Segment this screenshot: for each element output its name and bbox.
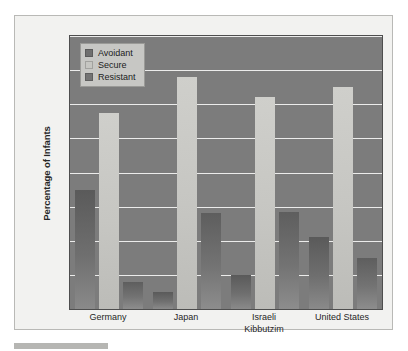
- bar-israeli-kibbutzim-resistant: [279, 212, 299, 309]
- bar-germany-secure: [99, 113, 119, 309]
- figure-container: Percentage of Infants 01020304050607080 …: [0, 0, 408, 351]
- bar-united-states-resistant: [357, 258, 377, 309]
- bar-israeli-kibbutzim-secure: [255, 97, 275, 309]
- legend-label-avoidant: Avoidant: [98, 47, 133, 59]
- bar-germany-resistant: [123, 282, 143, 309]
- bar-israeli-kibbutzim-avoidant: [231, 275, 251, 309]
- y-tick-mark: [69, 275, 70, 276]
- x-axis-label: United States: [303, 312, 381, 324]
- legend-label-secure: Secure: [98, 59, 127, 71]
- bar-japan-avoidant: [153, 292, 173, 309]
- legend-item[interactable]: Resistant: [85, 71, 136, 83]
- legend-item[interactable]: Secure: [85, 59, 136, 71]
- bar-united-states-secure: [333, 87, 353, 309]
- bar-japan-secure: [177, 77, 197, 309]
- y-tick-mark: [69, 104, 70, 105]
- x-axis-label-line: Israeli: [225, 312, 303, 324]
- x-axis-label: IsraeliKibbutzim: [225, 312, 303, 335]
- chart-card: Percentage of Infants 01020304050607080 …: [14, 15, 393, 330]
- x-axis-label-line: Japan: [147, 312, 225, 324]
- gridline: [70, 36, 382, 37]
- x-axis-label: Germany: [69, 312, 147, 324]
- legend-swatch-avoidant: [85, 49, 93, 57]
- x-axis-label-line: United States: [303, 312, 381, 324]
- y-axis-title: Percentage of Infants: [41, 99, 52, 249]
- plot-area: 01020304050607080 Avoidant Secure Resist…: [69, 35, 383, 310]
- legend-swatch-resistant: [85, 73, 93, 81]
- bar-united-states-avoidant: [309, 237, 329, 309]
- x-axis-labels: GermanyJapanIsraeliKibbutzimUnited State…: [69, 312, 383, 346]
- x-axis-label-line: Kibbutzim: [225, 324, 303, 336]
- bar-germany-avoidant: [75, 190, 95, 309]
- bottom-decoration-strip: [14, 343, 108, 349]
- legend-item[interactable]: Avoidant: [85, 47, 136, 59]
- y-tick-mark: [69, 70, 70, 71]
- y-tick-mark: [69, 309, 70, 310]
- legend-swatch-secure: [85, 61, 93, 69]
- y-tick-mark: [69, 173, 70, 174]
- y-tick-mark: [69, 241, 70, 242]
- y-tick-mark: [69, 138, 70, 139]
- x-axis-label: Japan: [147, 312, 225, 324]
- x-axis-label-line: Germany: [69, 312, 147, 324]
- bar-japan-resistant: [201, 213, 221, 309]
- legend-label-resistant: Resistant: [98, 71, 136, 83]
- y-tick-mark: [69, 207, 70, 208]
- chart-legend: Avoidant Secure Resistant: [80, 43, 145, 87]
- y-tick-mark: [69, 36, 70, 37]
